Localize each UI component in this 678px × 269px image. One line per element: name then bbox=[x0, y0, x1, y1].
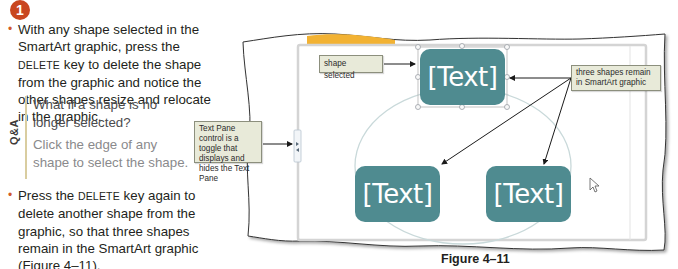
callout-three-shapes: three shapes remain in SmartArt graphic bbox=[571, 65, 661, 91]
callout-shape-selected: shape selected bbox=[319, 55, 383, 73]
smartart-shape-bottom-right[interactable]: [Text] bbox=[486, 166, 571, 222]
screenshot-frame bbox=[0, 0, 678, 269]
smartart-shape-top[interactable]: [Text] bbox=[420, 49, 505, 105]
text-pane-control bbox=[294, 130, 301, 162]
callout-text-pane-control: Text Pane control is a toggle that displ… bbox=[194, 121, 262, 163]
ribbon-accent bbox=[307, 34, 395, 44]
figure-caption: Figure 4–11 bbox=[441, 252, 510, 266]
smartart-shape-bottom-left[interactable]: [Text] bbox=[355, 166, 440, 222]
